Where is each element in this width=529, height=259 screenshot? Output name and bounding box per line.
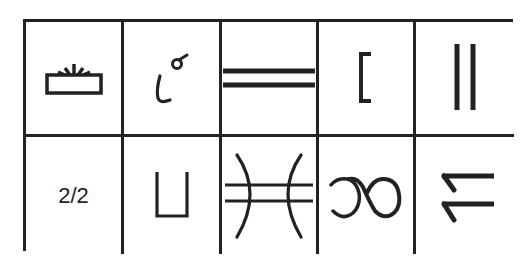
- double-vertical-lines-icon: [450, 44, 480, 112]
- double-hooked-lines-icon: [434, 166, 496, 226]
- cell-r1-c4: [416, 137, 514, 254]
- cell-r1-c2: [222, 137, 319, 254]
- open-top-box-icon: [152, 172, 192, 220]
- cell-r0-c0: [26, 22, 124, 137]
- arcs-with-double-lines-icon: [223, 153, 315, 239]
- loop-symbol-icon: [329, 171, 403, 221]
- symbol-table: 2/2: [23, 19, 513, 251]
- double-horizontal-lines-icon: [223, 63, 315, 93]
- left-bracket-icon: [356, 51, 376, 105]
- cell-r0-c4: [416, 22, 514, 137]
- cell-r0-c1: [124, 22, 222, 137]
- fixed-box-with-rays-icon: [44, 58, 104, 98]
- cell-r0-c2: [222, 22, 319, 137]
- fraction-label: 2/2: [58, 183, 89, 209]
- curved-stroke-with-circle-icon: [150, 50, 194, 106]
- cell-r1-c1: [124, 137, 222, 254]
- cell-r1-c0: 2/2: [26, 137, 124, 254]
- cell-r0-c3: [319, 22, 416, 137]
- cell-r1-c3: [319, 137, 416, 254]
